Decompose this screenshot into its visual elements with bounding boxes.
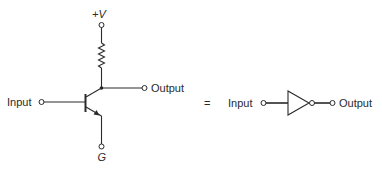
inverter-logic-symbol: Input Output	[228, 91, 372, 115]
supply-voltage-label: +V	[92, 8, 107, 20]
equals-sign: =	[204, 97, 210, 109]
input-label: Input	[7, 96, 31, 108]
inversion-bubble-icon	[310, 101, 315, 106]
inverter-input-label: Input	[228, 97, 252, 109]
ground-label: G	[98, 151, 107, 163]
ground-terminal-icon	[99, 144, 104, 149]
inverter-output-label: Output	[339, 97, 372, 109]
inverter-triangle-icon	[288, 91, 309, 115]
output-terminal-icon	[142, 86, 147, 91]
transistor-inverter-circuit: +V Output Input G	[7, 8, 184, 163]
inverter-input-terminal-icon	[261, 101, 266, 106]
inverter-output-terminal-icon	[330, 101, 335, 106]
npn-transistor-icon	[86, 88, 102, 116]
collector-resistor-icon	[99, 43, 105, 68]
supply-terminal-icon	[99, 23, 104, 28]
input-terminal-icon	[39, 100, 44, 105]
output-label: Output	[151, 82, 184, 94]
inverter-diagram: +V Output Input G =	[0, 0, 382, 170]
